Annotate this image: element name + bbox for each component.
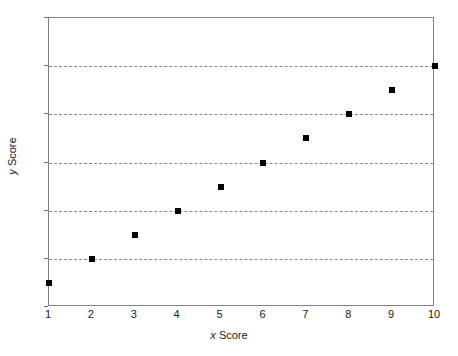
x-axis-tick-label: 2 <box>88 309 94 320</box>
x-axis-tick-label: 5 <box>216 309 222 320</box>
x-axis-title: x Score <box>0 329 458 341</box>
y-axis-title: y Score <box>6 106 18 206</box>
x-axis-tick-label: 6 <box>259 309 265 320</box>
y-axis-tick-mark <box>44 306 48 307</box>
data-point-marker <box>132 232 138 238</box>
data-point-marker <box>346 111 352 117</box>
x-axis-tick-label: 10 <box>428 309 440 320</box>
x-axis-tick-label: 1 <box>45 309 51 320</box>
gridline <box>49 114 433 115</box>
data-point-marker <box>46 280 52 286</box>
y-axis-title-variable: y <box>6 169 18 175</box>
x-axis-tick-label: 8 <box>345 309 351 320</box>
data-point-marker <box>218 184 224 190</box>
x-axis-tick-label: 4 <box>174 309 180 320</box>
data-point-marker <box>175 208 181 214</box>
x-axis-tick-label: 9 <box>388 309 394 320</box>
gridline <box>49 259 433 260</box>
data-point-marker <box>303 135 309 141</box>
gridline <box>49 66 433 67</box>
scatter-chart-figure: y Score 024681012 12345678910 x Score <box>0 0 458 356</box>
gridline <box>49 211 433 212</box>
y-axis-title-text: Score <box>6 137 18 169</box>
x-axis-tick-label: 3 <box>131 309 137 320</box>
x-axis-title-text: Score <box>216 329 248 341</box>
data-point-marker <box>432 63 438 69</box>
data-point-marker <box>260 160 266 166</box>
data-point-marker <box>389 87 395 93</box>
gridline <box>49 163 433 164</box>
x-axis-tick-label: 7 <box>302 309 308 320</box>
plot-area <box>48 17 434 306</box>
data-point-marker <box>89 256 95 262</box>
